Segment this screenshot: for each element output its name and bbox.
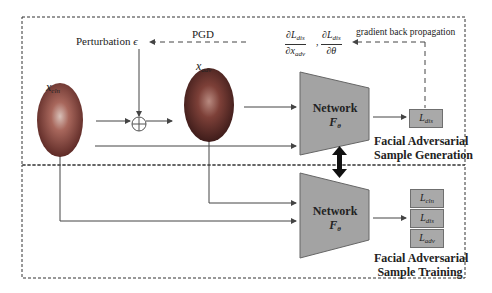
loss-dis: Ldis	[410, 209, 444, 228]
x-cln-label: xcln	[46, 80, 60, 95]
loss-dis-top: Ldis	[409, 109, 443, 128]
epsilon-symbol: ϵ	[133, 35, 137, 47]
training-section-title: Facial Adversarial Sample Training	[374, 251, 466, 279]
gradient-fraction-xadv: ∂Ldis ∂xadv	[285, 29, 306, 60]
gradient-backprop-label: gradient back propagation	[356, 27, 455, 37]
generation-section-title: Facial Adversarial Sample Generation	[374, 134, 466, 162]
adversarial-face-image	[184, 68, 234, 142]
pgd-label: PGD	[192, 28, 214, 40]
shared-weights-arrow-icon	[332, 146, 347, 178]
network-top-label: Network Fθ	[307, 101, 363, 133]
clean-face-image	[37, 83, 83, 157]
loss-adv: Ladv	[410, 229, 444, 248]
loss-cln: Lcln	[410, 189, 444, 208]
network-bottom-label: Network Fθ	[307, 204, 363, 236]
perturbation-label: Perturbation ϵ	[76, 35, 138, 47]
gradient-fraction-theta: ∂Ldis ∂θ	[321, 29, 342, 57]
x-adv-label: xadv	[196, 59, 211, 74]
